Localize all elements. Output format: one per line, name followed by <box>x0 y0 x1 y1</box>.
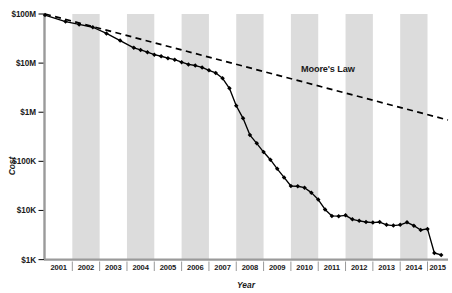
x-tick-label-2014: 2014 <box>406 263 423 272</box>
x-tick-label-2011: 2011 <box>324 263 341 272</box>
x-tick-label-2009: 2009 <box>269 263 286 272</box>
moores-law-annotation: Moore's Law <box>301 64 356 74</box>
x-tick-label-2002: 2002 <box>78 263 95 272</box>
x-tick-label-2001: 2001 <box>50 263 67 272</box>
year-band-2010 <box>291 14 318 260</box>
x-tick-label-2005: 2005 <box>160 263 177 272</box>
x-axis-title: Year <box>237 280 256 290</box>
x-tick-label-2012: 2012 <box>351 263 368 272</box>
x-tick-label-2006: 2006 <box>187 263 204 272</box>
x-tick-label-2008: 2008 <box>242 263 259 272</box>
x-tick-label-2013: 2013 <box>378 263 395 272</box>
x-tick-label-2010: 2010 <box>296 263 313 272</box>
x-tick-label-2004: 2004 <box>132 263 149 272</box>
x-tick-labels: 2001200220032004200520062007200820092010… <box>50 263 446 272</box>
y-tick-label-0: $100M <box>11 10 36 19</box>
year-band-2002 <box>72 14 99 260</box>
year-band-2006 <box>182 14 209 260</box>
y-tick-label-5: $1K <box>21 256 36 265</box>
y-axis-title: Cost <box>7 155 17 175</box>
y-tick-label-1: $10M <box>16 59 36 68</box>
y-tick-label-2: $1M <box>20 108 36 117</box>
x-tick-label-2003: 2003 <box>105 263 122 272</box>
chart-canvas: $100M$10M$1M$100K$10K$1K 200120022003200… <box>0 0 452 293</box>
genome-cost-chart: $100M$10M$1M$100K$10K$1K 200120022003200… <box>0 0 452 293</box>
y-tick-label-4: $10K <box>17 206 36 215</box>
chart-background <box>0 0 452 293</box>
x-tick-label-2007: 2007 <box>214 263 231 272</box>
x-tick-label-2015: 2015 <box>430 263 447 272</box>
